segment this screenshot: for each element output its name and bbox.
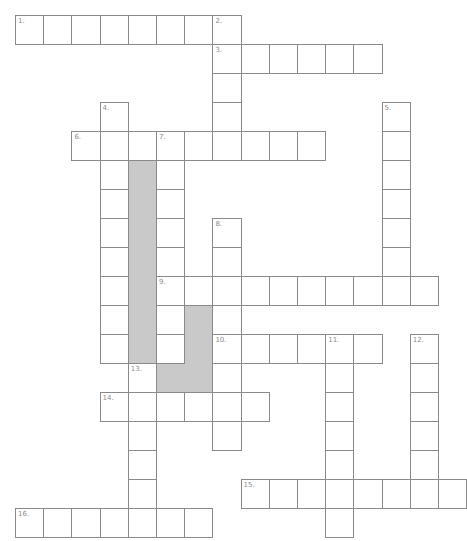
crossword-cell[interactable]: [156, 218, 185, 248]
crossword-cell[interactable]: 16.: [15, 508, 44, 538]
crossword-cell[interactable]: [438, 479, 467, 509]
crossword-cell[interactable]: [100, 334, 129, 364]
crossword-cell[interactable]: [382, 131, 411, 161]
crossword-cell[interactable]: [100, 189, 129, 219]
crossword-cell[interactable]: [71, 15, 100, 45]
crossword-cell[interactable]: [100, 276, 129, 306]
crossword-cell[interactable]: [325, 276, 354, 306]
crossword-cell[interactable]: [43, 508, 72, 538]
crossword-cell[interactable]: 12.: [410, 334, 439, 364]
crossword-cell[interactable]: [297, 479, 326, 509]
crossword-cell[interactable]: [269, 276, 298, 306]
crossword-cell[interactable]: [410, 479, 439, 509]
crossword-cell[interactable]: 1.: [15, 15, 44, 45]
crossword-cell[interactable]: [241, 44, 270, 74]
crossword-cell[interactable]: [410, 450, 439, 480]
crossword-cell[interactable]: 9.: [156, 276, 185, 306]
crossword-cell[interactable]: [297, 276, 326, 306]
crossword-cell[interactable]: [212, 421, 241, 451]
crossword-cell[interactable]: [100, 508, 129, 538]
crossword-cell[interactable]: 15.: [241, 479, 270, 509]
crossword-cell[interactable]: [156, 15, 185, 45]
crossword-cell[interactable]: [128, 392, 157, 422]
crossword-cell[interactable]: [269, 479, 298, 509]
crossword-cell[interactable]: [128, 421, 157, 451]
crossword-cell[interactable]: [382, 247, 411, 277]
crossword-cell[interactable]: [410, 363, 439, 393]
crossword-cell[interactable]: [382, 276, 411, 306]
crossword-cell[interactable]: [382, 218, 411, 248]
crossword-cell[interactable]: 3.: [212, 44, 241, 74]
crossword-cell[interactable]: [241, 334, 270, 364]
crossword-cell[interactable]: [128, 508, 157, 538]
crossword-cell[interactable]: [241, 276, 270, 306]
crossword-cell[interactable]: [353, 334, 382, 364]
crossword-cell[interactable]: 2.: [212, 15, 241, 45]
crossword-cell[interactable]: [410, 421, 439, 451]
crossword-cell[interactable]: [212, 131, 241, 161]
crossword-cell[interactable]: [353, 479, 382, 509]
crossword-cell[interactable]: [184, 276, 213, 306]
crossword-cell[interactable]: [353, 276, 382, 306]
crossword-cell[interactable]: [100, 131, 129, 161]
crossword-cell[interactable]: [128, 131, 157, 161]
crossword-cell[interactable]: [100, 15, 129, 45]
crossword-cell[interactable]: [212, 305, 241, 335]
crossword-cell[interactable]: [325, 363, 354, 393]
crossword-cell[interactable]: [100, 218, 129, 248]
crossword-cell[interactable]: [269, 334, 298, 364]
crossword-cell[interactable]: [128, 479, 157, 509]
crossword-cell[interactable]: [325, 508, 354, 538]
crossword-cell[interactable]: [241, 131, 270, 161]
crossword-cell[interactable]: [184, 15, 213, 45]
crossword-cell[interactable]: [43, 15, 72, 45]
crossword-cell[interactable]: [156, 392, 185, 422]
crossword-cell[interactable]: [212, 73, 241, 103]
crossword-cell[interactable]: [382, 189, 411, 219]
crossword-cell[interactable]: [269, 44, 298, 74]
crossword-cell[interactable]: [297, 334, 326, 364]
crossword-cell[interactable]: [325, 421, 354, 451]
crossword-cell[interactable]: 14.: [100, 392, 129, 422]
crossword-cell[interactable]: 11.: [325, 334, 354, 364]
crossword-cell[interactable]: [212, 276, 241, 306]
crossword-cell[interactable]: [71, 508, 100, 538]
crossword-cell[interactable]: [100, 160, 129, 190]
crossword-cell[interactable]: 7.: [156, 131, 185, 161]
crossword-cell[interactable]: [184, 392, 213, 422]
crossword-cell[interactable]: [269, 131, 298, 161]
crossword-cell[interactable]: [156, 305, 185, 335]
crossword-cell[interactable]: [241, 392, 270, 422]
crossword-cell[interactable]: [353, 44, 382, 74]
crossword-cell[interactable]: [325, 44, 354, 74]
crossword-cell[interactable]: [212, 363, 241, 393]
crossword-cell[interactable]: [410, 392, 439, 422]
crossword-cell[interactable]: [100, 247, 129, 277]
crossword-cell[interactable]: [156, 508, 185, 538]
crossword-cell[interactable]: 8.: [212, 218, 241, 248]
crossword-cell[interactable]: [100, 305, 129, 335]
crossword-cell[interactable]: [325, 392, 354, 422]
crossword-cell[interactable]: [156, 334, 185, 364]
crossword-cell[interactable]: [382, 479, 411, 509]
crossword-cell[interactable]: [325, 450, 354, 480]
crossword-cell[interactable]: [128, 15, 157, 45]
crossword-cell[interactable]: [156, 160, 185, 190]
crossword-cell[interactable]: [410, 276, 439, 306]
crossword-cell[interactable]: [297, 131, 326, 161]
crossword-cell[interactable]: 13.: [128, 363, 157, 393]
crossword-cell[interactable]: [212, 102, 241, 132]
crossword-cell[interactable]: [184, 508, 213, 538]
crossword-cell[interactable]: [212, 247, 241, 277]
crossword-cell[interactable]: [156, 247, 185, 277]
crossword-cell[interactable]: [382, 160, 411, 190]
crossword-cell[interactable]: [184, 131, 213, 161]
crossword-cell[interactable]: [212, 392, 241, 422]
crossword-cell[interactable]: [128, 450, 157, 480]
crossword-cell[interactable]: [156, 189, 185, 219]
crossword-cell[interactable]: [297, 44, 326, 74]
crossword-cell[interactable]: 6.: [71, 131, 100, 161]
crossword-cell[interactable]: [325, 479, 354, 509]
crossword-cell[interactable]: 10.: [212, 334, 241, 364]
crossword-cell[interactable]: 5.: [382, 102, 411, 132]
